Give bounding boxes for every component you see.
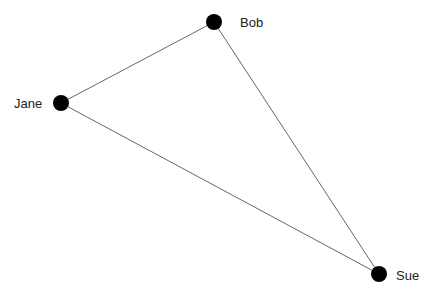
node-sue: Sue <box>371 266 419 283</box>
node-label: Bob <box>240 15 263 30</box>
node-jane: Jane <box>14 95 69 111</box>
edge-jane-sue <box>61 103 379 274</box>
edges-group <box>61 22 379 274</box>
node-circle <box>371 266 387 282</box>
edge-jane-bob <box>61 22 214 103</box>
node-bob: Bob <box>206 14 263 30</box>
node-label: Sue <box>396 268 419 283</box>
node-circle <box>53 95 69 111</box>
edge-bob-sue <box>214 22 379 274</box>
network-graph: BobJaneSue <box>0 0 437 295</box>
node-label: Jane <box>14 96 42 111</box>
node-circle <box>206 14 222 30</box>
